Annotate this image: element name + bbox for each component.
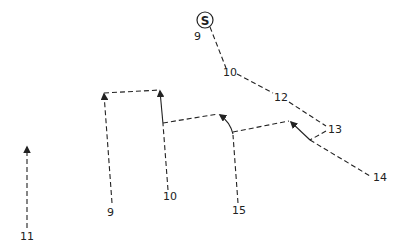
label-14: 14	[373, 171, 387, 184]
label-15: 15	[232, 204, 246, 217]
track-diagram: S 9 10 12 13 14 15 10 9 11	[0, 0, 404, 247]
label-11: 11	[20, 230, 34, 243]
label-13: 13	[328, 123, 342, 136]
path-13-to-junction	[310, 131, 326, 140]
path-middle	[163, 114, 218, 123]
path-junction-to-14	[310, 140, 370, 176]
arrow-9-up	[104, 94, 112, 203]
path-10-up	[163, 124, 168, 190]
label-10-top: 10	[223, 66, 237, 79]
arrow-10-up	[160, 91, 163, 124]
path-top-left	[104, 90, 160, 93]
start-marker: S	[197, 12, 213, 28]
arrow-to-right-turn	[291, 122, 310, 140]
label-9-bottom: 9	[107, 206, 114, 219]
start-label: S	[201, 14, 210, 28]
label-start-time: 9	[194, 30, 201, 43]
path-15-up	[233, 135, 238, 203]
path-10-to-12	[237, 74, 273, 93]
path-mid-right	[233, 121, 289, 132]
label-10-bottom: 10	[163, 190, 177, 203]
arrow-curve-15	[220, 115, 233, 134]
path-s-to-10	[210, 27, 226, 68]
label-12: 12	[274, 91, 288, 104]
path-12-to-13	[289, 102, 326, 126]
